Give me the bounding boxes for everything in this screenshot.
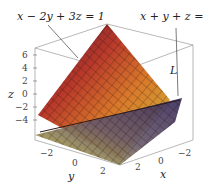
y-axis-label: y (68, 170, 74, 183)
y-tick-2: 2 (100, 166, 106, 176)
z-tick-2: 2 (22, 76, 28, 86)
z-tick-neg4: −4 (15, 115, 28, 125)
plane1-label: x − 2y + 3z = 1 (17, 10, 105, 23)
y-tick-neg2: −2 (40, 148, 53, 158)
z-tick-4: 4 (22, 63, 28, 73)
z-tick-0: 0 (22, 89, 28, 99)
z-tick-neg2: −2 (15, 102, 28, 112)
z-tick-6: 6 (22, 50, 28, 60)
x-axis-label: x (160, 168, 166, 181)
x-tick-2: 2 (135, 162, 141, 172)
plane2-label: x + y + z = 1 (140, 10, 205, 23)
plot-3d (0, 0, 205, 187)
plane2-leader (176, 28, 178, 96)
line-L-label: L (170, 64, 177, 77)
z-axis-label: z (8, 88, 14, 101)
y-tick-0: 0 (72, 158, 78, 168)
x-tick-0: 0 (158, 156, 164, 166)
x-tick-neg2: −2 (178, 148, 191, 158)
